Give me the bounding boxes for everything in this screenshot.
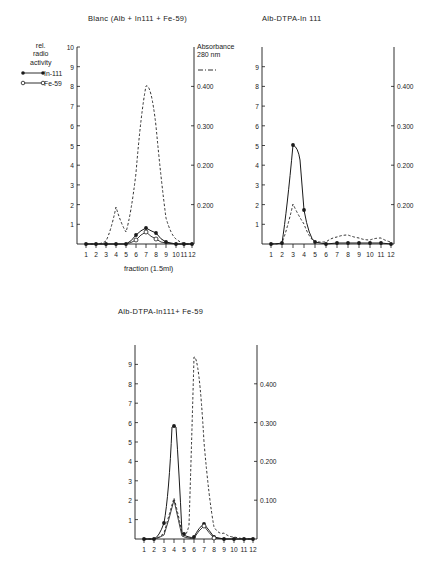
x-tick-4-p2: 4 (302, 251, 306, 258)
left-tick-4-p3: 4 (128, 458, 132, 465)
right-tick-0300-p2: 0.300 (397, 123, 414, 130)
panel-blanc: Blanc (Alb + In111 + Fe-59) rel. radio a… (0, 0, 230, 290)
panel-alb-dtpa-in111-fe59: Alb-DTPA-In111+ Fe-59 9 8 7 6 5 4 3 2 1 (0, 295, 427, 577)
x-axis-ticks-3 (144, 539, 253, 543)
right-tick-0200-lower-p2: 0.200 (397, 202, 414, 209)
x-tick-9-p2: 9 (357, 251, 361, 258)
left-tick-8-p2: 8 (255, 83, 259, 90)
x-tick-5: 5 (124, 251, 128, 258)
x-tick-6-p3: 6 (192, 546, 196, 553)
x-tick-11-p3: 11 (241, 546, 248, 553)
x-tick-1: 1 (84, 251, 88, 258)
left-tick-2: 2 (70, 202, 74, 209)
left-tick-5-p3: 5 (128, 439, 132, 446)
right-tick-0200-p3: 0.200 (260, 458, 277, 465)
right-tick-0100-p3: 0.100 (260, 497, 277, 504)
right-tick-0200-upper: 0.200 (197, 162, 214, 169)
x-tick-6-p2: 6 (324, 251, 328, 258)
left-tick-3-p3: 3 (128, 478, 132, 485)
x-tick-8: 8 (154, 251, 158, 258)
x-tick-1-p3: 1 (142, 546, 146, 553)
left-tick-7-p2: 7 (255, 103, 259, 110)
right-tick-0400: 0.400 (197, 83, 214, 90)
series-in111-curve-3 (144, 426, 253, 539)
x-tick-12-p3: 12 (249, 546, 257, 553)
left-axis-ticks-2 (262, 67, 265, 225)
x-tick-8-p3: 8 (212, 546, 216, 553)
x-tick-6: 6 (134, 251, 138, 258)
panel-blanc-plot: 10 9 8 7 6 5 4 3 2 1 0.400 0.300 0.200 0… (0, 0, 230, 290)
series-in111-curve (86, 228, 192, 244)
x-tick-11-p2: 11 (378, 251, 385, 258)
x-tick-4-p3: 4 (172, 546, 176, 553)
x-tick-12-p2: 12 (387, 251, 395, 258)
right-tick-0400-p3: 0.400 (260, 381, 277, 388)
left-tick-9: 9 (70, 64, 74, 71)
right-tick-0200-upper-p2: 0.200 (397, 162, 414, 169)
left-tick-1-p2: 1 (255, 221, 259, 228)
x-tick-3-p3: 3 (162, 546, 166, 553)
panel-alb-dtpa-in111: Alb-DTPA-In 111 9 8 7 6 5 4 3 2 1 (230, 0, 427, 290)
x-tick-11: 11 (181, 251, 188, 258)
panel-alb-dtpa-in111-fe59-plot: 9 8 7 6 5 4 3 2 1 0.400 0.300 0.200 0.10… (0, 295, 427, 577)
x-tick-2: 2 (94, 251, 98, 258)
left-tick-10: 10 (67, 44, 75, 51)
x-tick-9: 9 (164, 251, 168, 258)
x-tick-12: 12 (188, 251, 196, 258)
panel-alb-dtpa-in111-plot: 9 8 7 6 5 4 3 2 1 0.400 0.300 0.200 0.20… (230, 0, 427, 290)
x-tick-4: 4 (114, 251, 118, 258)
left-tick-9-p3: 9 (128, 361, 132, 368)
x-tick-5-p3: 5 (182, 546, 186, 553)
x-tick-8-p2: 8 (346, 251, 350, 258)
right-tick-0300-p3: 0.300 (260, 420, 277, 427)
left-tick-7-p3: 7 (128, 400, 132, 407)
x-tick-7-p3: 7 (202, 546, 206, 553)
left-tick-6: 6 (70, 123, 74, 130)
x-tick-10-p3: 10 (230, 546, 238, 553)
left-tick-2-p3: 2 (128, 497, 132, 504)
series-absorbance-curve (86, 86, 192, 244)
x-axis-ticks-2 (271, 244, 391, 248)
x-tick-5-p2: 5 (313, 251, 317, 258)
series-absorbance-curve-3 (144, 357, 253, 539)
x-tick-3: 3 (104, 251, 108, 258)
x-tick-2-p2: 2 (280, 251, 284, 258)
right-tick-0200-lower: 0.200 (197, 202, 214, 209)
legend-marker-in111 (21, 71, 45, 75)
left-tick-8: 8 (70, 83, 74, 90)
left-tick-5-p2: 5 (255, 143, 259, 150)
x-tick-10-p2: 10 (366, 251, 374, 258)
right-axis-ticks-2 (391, 86, 394, 204)
series-absorbance-curve-2 (271, 204, 391, 244)
left-tick-7: 7 (70, 103, 74, 110)
left-tick-3: 3 (70, 182, 74, 189)
x-tick-2-p3: 2 (152, 546, 156, 553)
x-tick-10: 10 (172, 251, 180, 258)
x-tick-9-p3: 9 (222, 546, 226, 553)
left-tick-5: 5 (70, 143, 74, 150)
left-tick-1: 1 (70, 221, 74, 228)
left-tick-1-p3: 1 (128, 517, 132, 524)
left-tick-9-p2: 9 (255, 64, 259, 71)
x-tick-1-p2: 1 (269, 251, 273, 258)
series-in111-markers-3 (142, 424, 255, 541)
x-tick-7: 7 (144, 251, 148, 258)
right-tick-0300: 0.300 (197, 123, 214, 130)
left-tick-4-p2: 4 (255, 162, 259, 169)
x-tick-7-p2: 7 (335, 251, 339, 258)
series-fe59-curve-3 (144, 500, 253, 539)
left-tick-4: 4 (70, 162, 74, 169)
left-tick-3-p2: 3 (255, 182, 259, 189)
series-in111-curve-2 (271, 145, 391, 244)
left-tick-2-p2: 2 (255, 202, 259, 209)
left-tick-6-p2: 6 (255, 123, 259, 130)
legend-marker-fe59 (21, 81, 45, 85)
left-tick-6-p3: 6 (128, 420, 132, 427)
left-tick-8-p3: 8 (128, 381, 132, 388)
right-tick-0400-p2: 0.400 (397, 83, 414, 90)
x-tick-3-p2: 3 (291, 251, 295, 258)
